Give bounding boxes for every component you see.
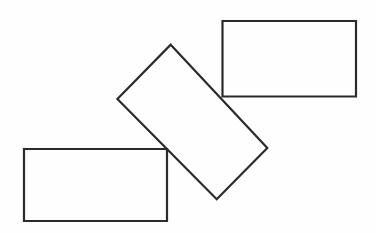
rectangles-figure	[0, 0, 376, 233]
canvas-background	[0, 0, 376, 233]
drawing-canvas: Line drawing of three overlapping rectan…	[0, 0, 376, 233]
